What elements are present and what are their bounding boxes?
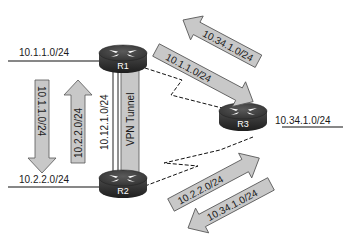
svg-text:10.1.1.0/24: 10.1.1.0/24 <box>164 51 214 84</box>
r1-lan-label: 10.1.1.0/24 <box>19 47 69 58</box>
r3-lan-label: 10.34.1.0/24 <box>275 115 331 126</box>
router-r1-label: R1 <box>117 61 129 71</box>
svg-text:10.34.1.0/24: 10.34.1.0/24 <box>201 28 256 64</box>
svg-text:10.34.1.0/24: 10.34.1.0/24 <box>205 187 260 223</box>
svg-text:10.2.2.0/24: 10.2.2.0/24 <box>176 173 226 206</box>
vpn-tunnel-label: VPN Tunnel <box>125 93 136 146</box>
router-r3-label: R3 <box>237 119 249 129</box>
r2-lan-label: 10.2.2.0/24 <box>19 174 69 185</box>
router-r3[interactable]: R3 <box>219 103 267 131</box>
router-r2[interactable]: R2 <box>99 170 147 198</box>
router-r1[interactable]: R1 <box>99 45 147 73</box>
svg-text:10.2.2.0/24: 10.2.2.0/24 <box>73 108 84 158</box>
network-diagram: 10.1.1.0/24 10.2.2.0/24 10.34.1.0/24 VPN… <box>0 0 349 243</box>
r1-r2-link-label: 10.12.1.0/24 <box>99 94 110 150</box>
router-r2-label: R2 <box>117 186 129 196</box>
route-arrow-up-10-2-2: 10.2.2.0/24 <box>64 80 92 163</box>
route-arrow-down-10-1-1: 10.1.1.0/24 <box>28 80 56 173</box>
r2-r3-serial-link <box>145 137 253 186</box>
svg-text:10.1.1.0/24: 10.1.1.0/24 <box>36 86 47 136</box>
